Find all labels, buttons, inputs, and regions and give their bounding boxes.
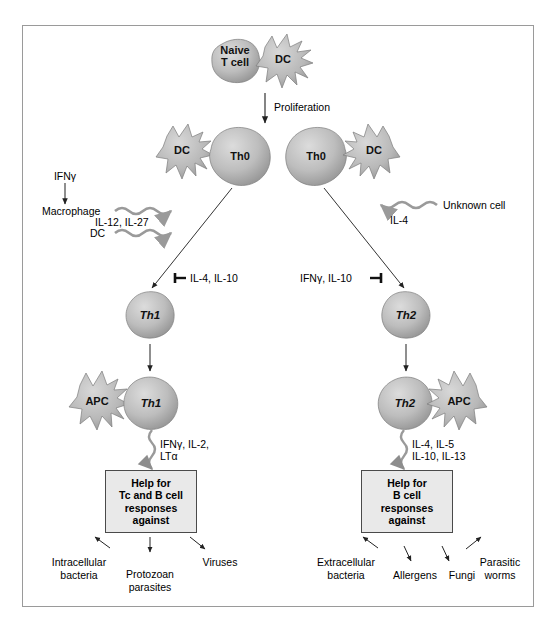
macrophage-label: Macrophage — [42, 205, 100, 217]
dc-cytokine-squiggle — [115, 230, 171, 236]
outcome-right-4: Parasitic worms — [480, 556, 520, 581]
help-th2-line3: responses — [381, 502, 434, 514]
outcome-arrow-right-2 — [404, 546, 411, 561]
figure-canvas: Naive T cell DC Proliferation DC Th0 Th0… — [0, 0, 557, 638]
help-th1-line1: Help for — [131, 477, 171, 489]
outcome-left-2-line2: parasites — [129, 581, 172, 593]
outcome-left-2: Protozoan parasites — [126, 568, 174, 593]
outcome-right-3: Fungi — [449, 569, 475, 582]
th0-left-label: Th0 — [230, 150, 250, 162]
outcome-arrow-right-4 — [466, 537, 481, 549]
ifng-label: IFNγ — [54, 170, 76, 182]
th2-label: Th2 — [396, 309, 416, 321]
help-th1-line2: Tc and B cell — [119, 489, 183, 501]
dc-left-label: DC — [174, 144, 190, 156]
outcome-right-2: Allergens — [393, 569, 437, 582]
th1-cytokines-line2: LTα — [160, 450, 178, 462]
help-th2-line2: B cell — [393, 489, 421, 501]
th1-inhibition-symbol — [174, 273, 186, 283]
th1-label: Th1 — [140, 309, 160, 321]
outcome-left-3-line1: Viruses — [203, 556, 238, 568]
outcome-left-1-line2: bacteria — [60, 569, 97, 581]
proliferation-label: Proliferation — [274, 101, 330, 113]
outcome-right-1-line1: Extracellular — [317, 556, 375, 568]
help-box-th1-text: Help for Tc and B cell responses against — [119, 477, 183, 527]
dc-inducer-label: DC — [90, 227, 105, 239]
th2-cytokines-line2: IL-10, IL-13 — [412, 450, 466, 462]
outcome-arrow-right-3 — [442, 546, 449, 561]
outcome-right-4-line1: Parasitic — [480, 556, 520, 568]
help-th1-line3: responses — [125, 502, 178, 514]
th1-inhibitor-label: IL-4, IL-10 — [190, 272, 238, 284]
th0-right-label: Th0 — [306, 150, 326, 162]
th1-cytokines-line1: IFNγ, IL-2, — [160, 438, 209, 450]
dc-right-label: DC — [366, 144, 382, 156]
th2-effector-label: Th2 — [395, 397, 415, 409]
outcome-arrow-left-3 — [190, 537, 205, 549]
unknown-cell-cytokine-squiggle — [381, 202, 437, 208]
help-th2-line4: against — [389, 514, 426, 526]
apc-left-label: APC — [85, 395, 108, 407]
naive-t-cell-label: Naive T cell — [220, 44, 249, 68]
th2-inhibition-symbol — [370, 273, 382, 283]
outcome-left-1-line1: Intracellular — [52, 556, 106, 568]
th2-inhibitor-label: IFNγ, IL-10 — [300, 272, 352, 284]
outcome-right-1-line2: bacteria — [327, 569, 364, 581]
outcome-left-2-line1: Protozoan — [126, 568, 174, 580]
outcome-left-1: Intracellular bacteria — [52, 556, 106, 581]
help-th1-line4: against — [133, 514, 170, 526]
th2-cytokine-squiggle — [401, 430, 407, 469]
help-box-th2-text: Help for B cell responses against — [381, 477, 434, 527]
outcome-arrow-right-1 — [363, 537, 378, 548]
help-box-th2: Help for B cell responses against — [361, 470, 453, 533]
macrophage-cytokine-squiggle — [115, 208, 171, 214]
help-box-th1: Help for Tc and B cell responses against — [105, 470, 197, 533]
dc-top-label: DC — [275, 53, 291, 65]
diagram-graphics — [0, 0, 557, 638]
th1-cytokine-squiggle — [149, 430, 155, 469]
il4-inducer-label: IL-4 — [390, 214, 408, 226]
th2-cytokines-line1: IL-4, IL-5 — [412, 438, 454, 450]
unknown-cell-label: Unknown cell — [443, 199, 505, 211]
outcome-left-3: Viruses — [203, 556, 238, 569]
outcome-right-2-line1: Allergens — [393, 569, 437, 581]
outcome-arrow-left-1 — [95, 537, 110, 548]
help-th2-line1: Help for — [387, 477, 427, 489]
outcome-right-4-line2: worms — [485, 569, 516, 581]
apc-right-label: APC — [447, 395, 470, 407]
th1-effector-label: Th1 — [141, 397, 161, 409]
naive-t-cell-label-line1: Naive — [220, 44, 249, 56]
outcome-right-1: Extracellular bacteria — [317, 556, 375, 581]
naive-t-cell-label-line2: T cell — [221, 56, 249, 68]
outcome-right-3-line1: Fungi — [449, 569, 475, 581]
